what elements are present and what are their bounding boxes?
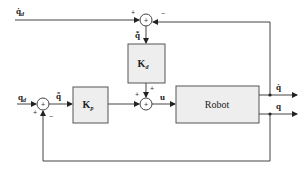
u-label: u xyxy=(160,92,165,102)
qd-label: qd xyxy=(18,92,27,103)
svg-text:+: + xyxy=(41,101,45,108)
sum-position-junction: + xyxy=(37,98,49,110)
sum-position-plus-sign: + xyxy=(33,109,37,116)
kd-block: Kd xyxy=(128,44,165,83)
sum-velocity-plus-sign: + xyxy=(131,9,135,16)
velocity-feedback-line xyxy=(153,22,270,95)
kp-block: Kp xyxy=(73,87,108,123)
robot-block: Robot xyxy=(176,86,259,123)
sum-control-plus-top: + xyxy=(150,85,154,92)
svg-text:+: + xyxy=(144,101,148,108)
qdot-branch-point xyxy=(268,93,271,96)
sum-velocity-minus-sign: − xyxy=(161,10,165,17)
q-output-label: q xyxy=(276,101,281,111)
qd-dot-label: q̇d xyxy=(16,6,25,17)
sum-control-junction: + xyxy=(140,98,152,110)
sum-position-minus-sign: − xyxy=(49,113,53,120)
qdot-output-label: q̇ xyxy=(276,82,281,92)
svg-text:Robot: Robot xyxy=(205,99,230,110)
svg-text:+: + xyxy=(144,17,148,24)
velocity-error-label: q̃̇ xyxy=(135,30,140,40)
position-error-label: q̃ xyxy=(56,91,61,101)
sum-velocity-junction: + xyxy=(140,14,152,26)
sum-control-plus-left: + xyxy=(135,91,139,98)
control-block-diagram: q̇d + + − q̃̇ Kd qd + + − q̃ Kp + + + xyxy=(0,0,307,172)
